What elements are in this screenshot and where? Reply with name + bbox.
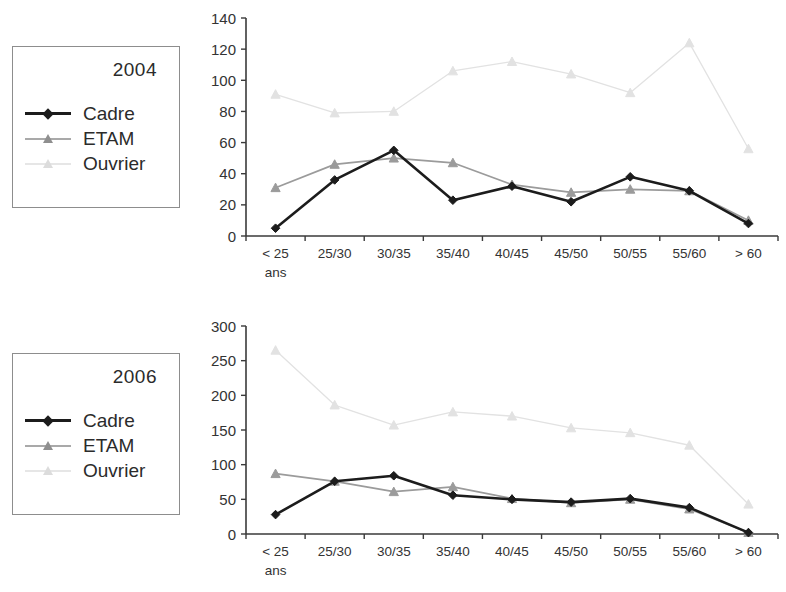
legend-title: 2004 bbox=[13, 47, 179, 81]
y-tick-label: 250 bbox=[211, 352, 236, 369]
data-point-marker bbox=[449, 491, 458, 500]
x-axis-unit-label: ans bbox=[265, 265, 287, 280]
data-point-marker bbox=[507, 57, 516, 66]
y-tick-label: 100 bbox=[211, 456, 236, 473]
legend-2004: 2004 Cadre ETAM bbox=[12, 46, 180, 208]
chart-2004-svg: 020406080100120140< 2525/3030/3535/4040/… bbox=[190, 4, 786, 296]
y-tick-label: 100 bbox=[211, 72, 236, 89]
x-tick-label: 45/50 bbox=[554, 544, 588, 559]
legend-label-etam: ETAM bbox=[83, 129, 157, 148]
x-axis-unit-label: ans bbox=[265, 563, 287, 578]
x-tick-label: 35/40 bbox=[436, 544, 470, 559]
y-tick-label: 120 bbox=[211, 41, 236, 58]
chart-2006: 050100150200250300< 2525/3030/3535/4040/… bbox=[190, 312, 786, 592]
legend-key-ouvrier bbox=[25, 464, 71, 478]
data-point-marker bbox=[271, 183, 280, 192]
legend-key-etam bbox=[25, 439, 71, 453]
y-tick-label: 40 bbox=[219, 165, 236, 182]
legend-title: 2006 bbox=[13, 354, 179, 388]
x-tick-label: 40/45 bbox=[495, 246, 529, 261]
data-point-marker bbox=[271, 90, 280, 99]
chart-2006-svg: 050100150200250300< 2525/3030/3535/4040/… bbox=[190, 312, 786, 592]
y-tick-label: 50 bbox=[219, 491, 236, 508]
y-tick-label: 60 bbox=[219, 134, 236, 151]
x-tick-label: > 60 bbox=[735, 544, 762, 559]
series-cadre bbox=[271, 146, 752, 232]
legend-key-ouvrier bbox=[25, 157, 71, 171]
legend-row-ouvrier: Ouvrier bbox=[13, 151, 157, 176]
x-tick-label: 55/60 bbox=[672, 246, 706, 261]
y-tick-label: 20 bbox=[219, 196, 236, 213]
legend-row-etam: ETAM bbox=[13, 126, 157, 151]
x-tick-label: 55/60 bbox=[672, 544, 706, 559]
chart-panel-2004: 2004 Cadre ETAM bbox=[0, 0, 786, 296]
legend-row-ouvrier: Ouvrier bbox=[13, 458, 157, 483]
y-tick-label: 150 bbox=[211, 422, 236, 439]
series-cadre bbox=[271, 471, 752, 536]
data-point-marker bbox=[744, 144, 753, 153]
legend-label-cadre: Cadre bbox=[83, 411, 157, 430]
data-point-marker bbox=[685, 38, 694, 47]
x-tick-label: 45/50 bbox=[554, 246, 588, 261]
y-tick-label: 140 bbox=[211, 10, 236, 27]
chart-2004: 020406080100120140< 2525/3030/3535/4040/… bbox=[190, 4, 786, 296]
x-tick-label: 40/45 bbox=[495, 544, 529, 559]
x-tick-label: 50/55 bbox=[613, 544, 647, 559]
data-point-marker bbox=[271, 346, 280, 355]
legend-items: Cadre ETAM Ouvrier bbox=[13, 408, 179, 483]
x-tick-label: > 60 bbox=[735, 246, 762, 261]
y-tick-label: 200 bbox=[211, 387, 236, 404]
legend-row-cadre: Cadre bbox=[13, 408, 157, 433]
x-tick-label: < 25 bbox=[262, 246, 289, 261]
legend-2006: 2006 Cadre ETAM bbox=[12, 353, 180, 515]
y-tick-label: 0 bbox=[228, 228, 236, 245]
x-tick-label: 30/35 bbox=[377, 544, 411, 559]
legend-row-etam: ETAM bbox=[13, 433, 157, 458]
legend-key-cadre bbox=[25, 107, 71, 121]
legend-label-ouvrier: Ouvrier bbox=[83, 461, 157, 480]
legend-key-etam bbox=[25, 132, 71, 146]
x-tick-label: < 25 bbox=[262, 544, 289, 559]
y-tick-label: 300 bbox=[211, 318, 236, 335]
legend-label-ouvrier: Ouvrier bbox=[83, 154, 157, 173]
x-tick-label: 25/30 bbox=[318, 544, 352, 559]
data-point-marker bbox=[626, 173, 635, 182]
y-tick-label: 80 bbox=[219, 103, 236, 120]
legend-key-cadre bbox=[25, 414, 71, 428]
data-point-marker bbox=[389, 471, 398, 480]
x-tick-label: 50/55 bbox=[613, 246, 647, 261]
data-point-marker bbox=[567, 197, 576, 206]
series-ouvrier bbox=[271, 346, 753, 508]
x-tick-label: 25/30 bbox=[318, 246, 352, 261]
legend-label-etam: ETAM bbox=[83, 436, 157, 455]
y-tick-label: 0 bbox=[228, 526, 236, 543]
series-ouvrier bbox=[271, 38, 753, 152]
x-tick-label: 30/35 bbox=[377, 246, 411, 261]
legend-row-cadre: Cadre bbox=[13, 101, 157, 126]
legend-items: Cadre ETAM Ouvrier bbox=[13, 101, 179, 176]
x-tick-label: 35/40 bbox=[436, 246, 470, 261]
legend-label-cadre: Cadre bbox=[83, 104, 157, 123]
chart-panel-2006: 2006 Cadre ETAM bbox=[0, 296, 786, 592]
